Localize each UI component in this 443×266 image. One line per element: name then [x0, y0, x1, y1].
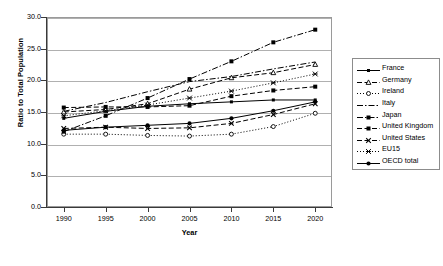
- legend-swatch: [356, 143, 381, 154]
- y-axis-tick-label: 5.0: [7, 171, 41, 179]
- x-axis-title: Year: [47, 228, 332, 237]
- data-point-marker: [104, 114, 108, 118]
- legend-label: Ireland: [381, 85, 404, 96]
- figure-container: 0.05.010.015.020.025.030.0 Ratio to Tota…: [0, 0, 443, 266]
- data-point-marker: [229, 59, 233, 63]
- data-point-marker: [366, 161, 370, 165]
- data-point-marker: [367, 92, 371, 96]
- data-point-marker: [313, 28, 317, 32]
- legend-label: Japan: [381, 109, 402, 120]
- data-point-marker: [104, 125, 108, 129]
- legend-label: United States: [381, 132, 425, 143]
- data-point-marker: [146, 133, 150, 137]
- legend-label: France: [381, 62, 404, 73]
- data-point-marker: [188, 134, 192, 138]
- legend-item-germany[interactable]: Germany: [356, 74, 437, 86]
- data-point-marker: [104, 105, 108, 109]
- data-point-marker: [188, 104, 192, 108]
- x-axis-tick: [231, 207, 232, 212]
- data-point-marker: [367, 115, 371, 119]
- x-axis-tick-label: 2010: [211, 214, 251, 223]
- data-point-marker: [367, 127, 371, 131]
- legend-label: OECD total: [381, 155, 418, 166]
- data-point-marker: [187, 87, 192, 92]
- legend-swatch: [356, 109, 381, 120]
- y-axis-tick-label: 0.0: [7, 203, 41, 211]
- legend-item-united-states[interactable]: United States: [356, 132, 437, 144]
- legend-item-italy[interactable]: Italy: [356, 97, 437, 109]
- chart-legend: FranceGermanyIrelandItalyJapanUnited Kin…: [352, 58, 440, 170]
- x-axis-tick-label: 1995: [86, 214, 126, 223]
- data-point-marker: [188, 77, 192, 81]
- y-axis-title: Ratio to Total Population: [16, 17, 25, 149]
- legend-label: Italy: [381, 97, 395, 108]
- x-axis-tick-label: 2015: [253, 214, 293, 223]
- data-point-marker: [367, 69, 370, 72]
- data-point-marker: [271, 70, 276, 75]
- data-point-marker: [187, 96, 192, 101]
- legend-swatch: [356, 155, 381, 166]
- data-point-marker: [104, 132, 108, 136]
- data-point-marker: [230, 100, 233, 103]
- data-point-marker: [271, 125, 275, 129]
- data-point-marker: [366, 150, 371, 155]
- data-point-marker: [145, 123, 149, 127]
- data-point-marker: [313, 100, 317, 104]
- y-axis-tick: [41, 49, 47, 50]
- data-point-marker: [229, 89, 234, 94]
- data-point-marker: [271, 88, 275, 92]
- legend-label: EU15: [381, 143, 400, 154]
- legend-label: Germany: [381, 74, 412, 85]
- data-point-marker: [313, 111, 317, 115]
- data-point-marker: [272, 98, 275, 101]
- x-axis-tick: [273, 207, 274, 212]
- data-point-marker: [271, 40, 275, 44]
- data-point-marker: [366, 80, 371, 85]
- x-axis-tick: [315, 207, 316, 212]
- data-point-marker: [229, 94, 233, 98]
- x-axis-tick-label: 2020: [295, 214, 335, 223]
- data-point-marker: [187, 121, 191, 125]
- y-axis-tick: [41, 144, 47, 145]
- data-point-marker: [313, 85, 317, 89]
- data-point-marker: [229, 116, 233, 120]
- x-axis-tick-label: 2005: [170, 214, 210, 223]
- y-axis-tick: [41, 112, 47, 113]
- legend-item-france[interactable]: France: [356, 62, 437, 74]
- data-point-marker: [313, 72, 318, 77]
- x-axis-tick: [106, 207, 107, 212]
- y-axis-tick: [41, 175, 47, 176]
- data-point-marker: [62, 128, 66, 132]
- y-axis-tick: [41, 80, 47, 81]
- legend-swatch: [356, 120, 381, 131]
- legend-item-ireland[interactable]: Ireland: [356, 85, 437, 97]
- data-point-marker: [62, 106, 66, 110]
- data-point-marker: [146, 96, 150, 100]
- y-axis-tick: [41, 17, 47, 18]
- x-axis-tick: [148, 207, 149, 212]
- legend-item-united-kingdom[interactable]: United Kingdom: [356, 120, 437, 132]
- legend-swatch: [356, 97, 381, 108]
- series-lines-layer: [47, 17, 332, 207]
- x-axis-tick: [190, 207, 191, 212]
- data-point-marker: [229, 132, 233, 136]
- data-point-marker: [61, 109, 66, 114]
- legend-item-japan[interactable]: Japan: [356, 108, 437, 120]
- data-point-marker: [271, 109, 275, 113]
- x-axis-tick-label: 1990: [44, 214, 84, 223]
- x-axis-tick: [64, 207, 65, 212]
- legend-swatch: [356, 74, 381, 85]
- legend-item-oecd-total[interactable]: OECD total: [356, 155, 437, 167]
- legend-label: United Kingdom: [381, 120, 433, 131]
- legend-swatch: [356, 85, 381, 96]
- x-axis-tick-label: 2000: [128, 214, 168, 223]
- legend-swatch: [356, 62, 381, 73]
- y-axis-tick: [41, 207, 47, 208]
- legend-swatch: [356, 132, 381, 143]
- figure-caption: [60, 256, 443, 266]
- legend-item-eu15[interactable]: EU15: [356, 143, 437, 155]
- data-point-marker: [271, 80, 276, 85]
